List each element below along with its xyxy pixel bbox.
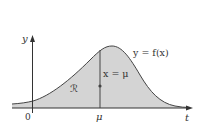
curve-label: y = f(x) [132, 47, 169, 58]
t-axis-label: t [185, 112, 190, 123]
y-axis-label: y [21, 33, 28, 44]
mu-tick-label: μ [96, 111, 103, 122]
y-axis-arrow-icon [30, 35, 35, 42]
origin-label: 0 [25, 112, 31, 122]
region-label: ℛ [70, 83, 78, 94]
bell-curve-diagram: y 0 μ t y = f(x) x = μ ℛ [0, 0, 201, 123]
mu-line-label: x = μ [103, 68, 129, 79]
centroid-dot [98, 84, 101, 87]
t-axis-arrow-icon [186, 106, 193, 111]
